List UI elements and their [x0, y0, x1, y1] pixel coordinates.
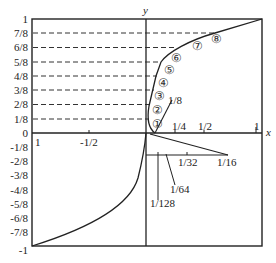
svg-text:5/8: 5/8	[14, 56, 29, 68]
svg-text:④: ④	[158, 76, 169, 90]
svg-text:-2/8: -2/8	[10, 155, 28, 167]
svg-text:1: 1	[23, 13, 29, 25]
svg-text:1/4: 1/4	[172, 120, 187, 132]
y-axis-label: y	[142, 4, 148, 16]
svg-text:1/32: 1/32	[178, 156, 198, 168]
svg-text:2/8: 2/8	[14, 98, 29, 110]
svg-text:⑧: ⑧	[211, 32, 222, 46]
svg-text:1/128: 1/128	[150, 197, 176, 209]
svg-text:-3/8: -3/8	[10, 169, 28, 181]
svg-text:-1/2: -1/2	[80, 136, 98, 148]
svg-text:-5/8: -5/8	[10, 198, 28, 210]
segment-1-64	[166, 154, 175, 185]
svg-text:②: ②	[152, 103, 163, 117]
svg-text:-1: -1	[19, 244, 28, 256]
svg-text:1: 1	[254, 120, 260, 132]
svg-text:4/8: 4/8	[14, 70, 29, 82]
circled-markers: ① ② ③ ④ ⑤ ⑥ ⑦ ⑧	[152, 32, 222, 131]
svg-text:1: 1	[35, 136, 41, 148]
svg-text:⑦: ⑦	[192, 39, 203, 53]
svg-text:-6/8: -6/8	[10, 212, 28, 224]
svg-text:1/8: 1/8	[14, 113, 29, 125]
svg-text:-7/8: -7/8	[10, 226, 28, 238]
dashed-guides	[33, 33, 217, 119]
piecewise-curve-diagram: 1 7/8 6/8 5/8 4/8 3/8 2/8 1/8 0 -1/8 -2/…	[0, 0, 276, 263]
y-tick-labels-negative: -1/8 -2/8 -3/8 -4/8 -5/8 -6/8 -7/8 -1	[10, 141, 28, 256]
svg-text:①: ①	[152, 117, 163, 131]
svg-text:7/8: 7/8	[14, 27, 29, 39]
svg-text:1/8: 1/8	[168, 94, 183, 106]
svg-text:-1/8: -1/8	[10, 141, 28, 153]
svg-text:6/8: 6/8	[14, 41, 29, 53]
svg-text:1/64: 1/64	[170, 183, 190, 195]
svg-text:0: 0	[23, 127, 29, 139]
segment-1-16	[150, 134, 228, 155]
svg-text:③: ③	[154, 89, 165, 103]
svg-text:⑥: ⑥	[171, 51, 182, 65]
lower-curve	[32, 133, 146, 246]
svg-text:⑤: ⑤	[164, 63, 175, 77]
svg-text:3/8: 3/8	[14, 84, 29, 96]
segment-labels: 1/8 1/16 1/32 1/64 1/128	[150, 94, 237, 209]
svg-text:1/16: 1/16	[217, 156, 237, 168]
svg-text:1/2: 1/2	[198, 120, 212, 132]
y-tick-labels-positive: 1 7/8 6/8 5/8 4/8 3/8 2/8 1/8 0	[14, 13, 29, 139]
x-axis-label: x	[265, 126, 271, 138]
svg-text:-4/8: -4/8	[10, 184, 28, 196]
x-tick-labels: 1 -1/2 1/4 1/2 1	[35, 120, 260, 148]
